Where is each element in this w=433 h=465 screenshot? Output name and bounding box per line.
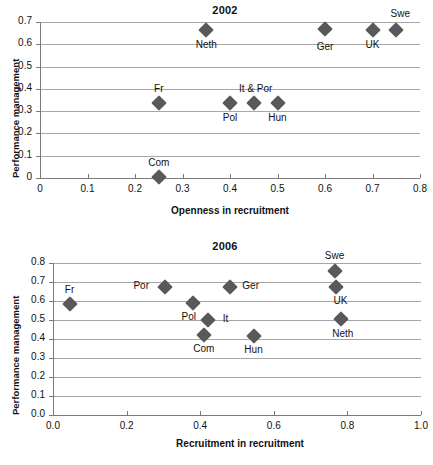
x-tick-mark (278, 174, 279, 178)
x-tick-mark (127, 411, 128, 415)
gridline (40, 156, 420, 157)
data-point-label: Hun (268, 112, 286, 123)
y-axis-line (53, 263, 54, 415)
data-point-marker (327, 263, 343, 279)
y-tick-label: 0.7 (0, 15, 32, 26)
x-tick-mark (373, 174, 374, 178)
gridline (53, 263, 421, 264)
data-point-marker (151, 96, 167, 112)
x-tick-mark (274, 411, 275, 415)
gridline (53, 320, 421, 321)
x-axis-label-2002: Openness in recruitment (130, 205, 330, 216)
gridline (53, 358, 421, 359)
gridline (53, 339, 421, 340)
y-tick-label: 0.6 (0, 37, 32, 48)
plot-area-2006: 0.00.10.20.30.40.50.60.70.80.00.20.40.60… (53, 263, 421, 415)
x-tick-mark (135, 174, 136, 178)
y-tick-label: 0.4 (0, 82, 32, 93)
x-tick-label: 0.8 (400, 183, 433, 194)
x-tick-label: 0.6 (254, 420, 294, 431)
scatter-chart-2002: 2002 Performance management Openness in … (0, 0, 433, 230)
x-tick-label: 0 (20, 183, 60, 194)
x-tick-label: 0.6 (305, 183, 345, 194)
data-point-marker (222, 96, 238, 112)
x-tick-mark (200, 411, 201, 415)
x-tick-label: 1.0 (401, 420, 433, 431)
y-tick-label: 0.5 (0, 60, 32, 71)
gridline (40, 89, 420, 90)
data-point-label: Swe (325, 250, 344, 261)
y-tick-label: 0.8 (11, 256, 45, 267)
y-tick-label: 0.4 (11, 332, 45, 343)
y-tick-label: 0.1 (0, 149, 32, 160)
y-tick-label: 0.0 (11, 408, 45, 419)
data-point-label: Ger (317, 41, 334, 52)
x-tick-label: 0.4 (210, 183, 250, 194)
data-point-marker (246, 328, 262, 344)
x-tick-mark (230, 174, 231, 178)
x-tick-mark (420, 174, 421, 178)
data-point-marker (388, 22, 404, 38)
x-tick-label: 0.3 (163, 183, 203, 194)
x-tick-mark (347, 411, 348, 415)
data-point-label: Com (193, 343, 214, 354)
x-tick-label: 0.2 (115, 183, 155, 194)
data-point-label: Com (148, 157, 169, 168)
gridline (53, 282, 421, 283)
data-point-marker (365, 22, 381, 38)
y-tick-label: 0.2 (0, 126, 32, 137)
plot-area-2002: 00.10.20.30.40.50.60.700.10.20.30.40.50.… (40, 22, 420, 178)
x-tick-label: 0.2 (107, 420, 147, 431)
y-tick-label: 0.3 (11, 351, 45, 362)
gridline (40, 44, 420, 45)
data-point-marker (317, 22, 333, 38)
data-point-label: Swe (391, 8, 410, 19)
data-point-label: Fr (154, 83, 163, 94)
y-tick-label: 0.6 (11, 294, 45, 305)
data-point-marker (246, 96, 262, 112)
y-tick-label: 0.3 (0, 104, 32, 115)
gridline (53, 301, 421, 302)
x-axis-line (40, 178, 420, 179)
x-tick-label: 0.0 (33, 420, 73, 431)
gridline (40, 22, 420, 23)
y-tick-label: 0.1 (11, 389, 45, 400)
data-point-marker (333, 311, 349, 327)
data-point-label: Hun (244, 344, 262, 355)
x-tick-mark (88, 174, 89, 178)
x-tick-mark (421, 411, 422, 415)
data-point-label: It (223, 313, 229, 324)
x-tick-mark (40, 174, 41, 178)
y-tick-label: 0.2 (11, 370, 45, 381)
data-point-label: UK (366, 39, 380, 50)
data-point-marker (200, 312, 216, 328)
y-tick-label: 0.7 (11, 275, 45, 286)
gridline (40, 133, 420, 134)
data-point-label: Fr (65, 284, 74, 295)
data-point-marker (198, 22, 214, 38)
data-point-label: Neth (332, 328, 353, 339)
scatter-chart-2006: 2006 Performance management Recruitment … (0, 230, 433, 465)
data-point-label: UK (333, 295, 347, 306)
x-tick-label: 0.1 (68, 183, 108, 194)
x-tick-label: 0.8 (327, 420, 367, 431)
data-point-label: Neth (196, 39, 217, 50)
y-axis-line (40, 22, 41, 178)
gridline (40, 67, 420, 68)
data-point-marker (270, 96, 286, 112)
x-tick-label: 0.7 (353, 183, 393, 194)
chart-title-2006: 2006 (150, 240, 300, 252)
data-point-label: Por (133, 280, 149, 291)
gridline (53, 377, 421, 378)
y-tick-label: 0.5 (11, 313, 45, 324)
data-point-marker (196, 327, 212, 343)
data-point-marker (185, 295, 201, 311)
x-axis-label-2006: Recruitment in recruitment (130, 438, 350, 449)
data-point-label: Pol (182, 311, 196, 322)
chart-title-2002: 2002 (150, 4, 300, 16)
gridline (53, 396, 421, 397)
x-axis-line (53, 415, 421, 416)
y-axis-label-2002: Performance management (10, 59, 21, 178)
x-tick-mark (183, 174, 184, 178)
y-tick-label: 0 (0, 171, 32, 182)
